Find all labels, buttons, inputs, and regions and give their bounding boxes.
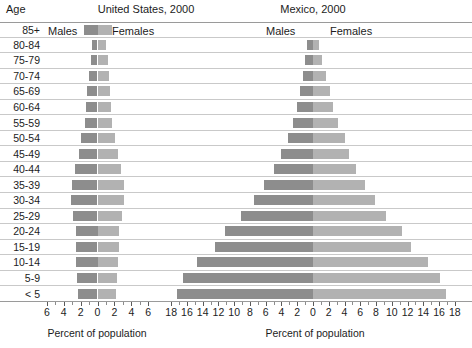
age-group-label: 30-34 [0,194,40,206]
us-bar-females [98,118,112,128]
mexico-bar-males [300,86,313,96]
us-bar-males [72,180,97,190]
axis-tick-minor [368,302,369,305]
mexico-bar-females [313,118,338,128]
axis-tick-label: 8 [373,306,379,318]
us-bar-males [77,273,97,283]
pyramid-row: 35-39 [0,177,472,193]
us-bar-females [98,273,117,283]
us-bar-males [81,133,97,143]
us-bar-females [98,86,111,96]
pyramid-row: 80-84 [0,38,472,54]
axis-tick-minor [289,302,290,305]
pyramid-row: 10-14 [0,255,472,271]
pyramid-row: 25-29 [0,209,472,225]
mexico-bar-males [254,195,313,205]
age-group-label: 40-44 [0,163,40,175]
mexico-bar-females [313,195,375,205]
mexico-bar-females [313,211,386,221]
axis-tick-label: 6 [263,306,269,318]
axis-tick-minor [258,302,259,305]
mexico-bar-males [264,180,313,190]
axis-tick-label: 4 [342,306,348,318]
axis-tick-label: 2 [326,306,332,318]
pyramid-row: 70-74 [0,69,472,85]
age-group-label: 75-79 [0,54,40,66]
mexico-bar-males [305,55,313,65]
age-group-label: 15-19 [0,241,40,253]
axis-tick-label: 6 [357,306,363,318]
axis-tick-minor [195,302,196,305]
us-bar-males [78,289,97,299]
us-bar-females [98,242,119,252]
age-group-label: 65-69 [0,85,40,97]
pyramid-row: 55-59 [0,115,472,131]
us-axis-caption: Percent of population [46,327,148,339]
us-bar-females [98,289,117,299]
pyramid-row: 30-34 [0,193,472,209]
pyramid-row: 50-54 [0,131,472,147]
axis-tick-label: 8 [247,306,253,318]
us-bar-males [79,149,98,159]
mexico-x-axis: 18161412108642024681012141618 [0,302,472,320]
mexico-bar-females [313,242,411,252]
axis-tick-minor [447,302,448,305]
axis-tick-label: 10 [228,306,240,318]
us-bar-males [91,55,98,65]
axis-tick-minor [226,302,227,305]
axis-tick-label: 14 [197,306,209,318]
us-bar-females [98,102,112,112]
us-bar-females [98,226,119,236]
mexico-bar-males [183,273,313,283]
age-group-label: 60-64 [0,101,40,113]
us-bar-females [98,180,124,190]
us-bar-females [98,40,106,50]
axis-tick-minor [242,302,243,305]
axis-tick-label: 0 [310,306,316,318]
mexico-bar-females [313,257,428,267]
us-bar-males [71,195,97,205]
mexico-bar-females [313,273,440,283]
axis-tick-minor [274,302,275,305]
mexico-bar-females [313,180,365,190]
us-bar-males [73,211,98,221]
axis-tick-label: 18 [165,306,177,318]
us-bar-females [98,257,118,267]
pyramid-row: 20-24 [0,224,472,240]
pyramid-row: 40-44 [0,162,472,178]
us-bar-males [76,226,97,236]
age-group-label: 5-9 [0,272,40,284]
mexico-bar-males [293,118,313,128]
us-bar-males [86,102,98,112]
pyramid-row: 45-49 [0,146,472,162]
pyramid-row: 65-69 [0,84,472,100]
axis-tick-minor [352,302,353,305]
mexico-bar-males [225,226,313,236]
axis-tick-minor [384,302,385,305]
mexico-bar-males [177,289,313,299]
figure-header: Age United States, 2000 Mexico, 2000 [0,0,472,22]
axis-tick-minor [337,302,338,305]
mexico-bar-females [313,133,345,143]
axis-tick-minor [305,302,306,305]
us-bar-females [98,211,123,221]
age-group-label: 85+ [0,24,40,36]
axis-tick-minor [179,302,180,305]
us-bar-females [98,133,116,143]
axis-tick-label: 2 [294,306,300,318]
us-bar-males [87,86,97,96]
axis-tick-label: 12 [213,306,225,318]
mexico-bar-males [274,164,313,174]
mexico-bar-females [313,102,333,112]
axis-tick-minor [400,302,401,305]
age-group-label: 20-24 [0,225,40,237]
us-bar-females [98,149,118,159]
axis-tick-minor [431,302,432,305]
mexico-axis-caption: Percent of population [175,327,455,339]
axis-tick-label: 10 [386,306,398,318]
us-bar-males [75,164,98,174]
mexico-bar-females [313,71,326,81]
pyramid-row: 60-64 [0,100,472,116]
age-axis-title: Age [6,3,26,15]
axis-tick-minor [211,302,212,305]
